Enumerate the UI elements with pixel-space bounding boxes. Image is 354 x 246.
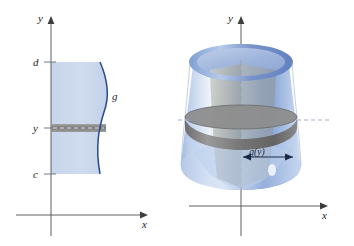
tick-label-y: y bbox=[32, 122, 38, 134]
solid-of-revolution-svg: x y bbox=[177, 0, 354, 246]
shaded-region bbox=[51, 62, 107, 174]
y-axis-label: y bbox=[227, 12, 233, 24]
tick-label-d: d bbox=[33, 56, 39, 68]
x-axis-label: x bbox=[321, 209, 327, 221]
plane-region-panel: x y d c y g bbox=[0, 0, 177, 246]
shell-method-figure: x y d c y g bbox=[0, 0, 354, 246]
tick-label-c: c bbox=[33, 168, 38, 180]
solid-of-revolution-panel: x y bbox=[177, 0, 354, 246]
plane-region-svg: x y d c y g bbox=[0, 0, 177, 246]
surface-highlight bbox=[268, 164, 276, 176]
y-axis-arrow bbox=[48, 16, 55, 24]
radius-label-gy: g(y) bbox=[249, 147, 264, 158]
y-axis-arrow bbox=[238, 16, 245, 24]
curve-label-g: g bbox=[112, 90, 118, 102]
y-axis-label: y bbox=[37, 12, 43, 24]
x-axis-label: x bbox=[141, 218, 147, 230]
